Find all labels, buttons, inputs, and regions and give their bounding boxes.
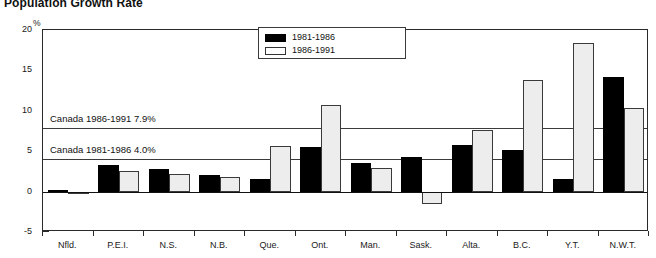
page-title: Population Growth Rate [4, 0, 143, 10]
x-tick-label: B.C. [513, 240, 531, 250]
bar [401, 157, 421, 192]
x-tick-label: Man. [360, 240, 380, 250]
y-tick-label: 10 [6, 105, 32, 115]
bar-group [43, 30, 94, 230]
reference-line-label: Canada 1981-1986 4.0% [50, 144, 156, 155]
y-tick-major [42, 231, 49, 232]
bar [300, 147, 320, 191]
bar-group [245, 30, 296, 230]
x-tick [598, 231, 599, 236]
bar-group [397, 30, 448, 230]
reference-line-label: Canada 1986-1991 7.9% [50, 113, 156, 124]
bar [149, 169, 169, 192]
y-tick-label: 20 [6, 24, 32, 34]
y-tick-label: 15 [6, 64, 32, 74]
bar-group [498, 30, 549, 230]
bar [321, 105, 341, 191]
bar [351, 163, 371, 192]
bar [573, 43, 593, 192]
bar-group [296, 30, 347, 230]
population-growth-rate-chart: Population Growth Rate % 20151050-5 Cana… [0, 0, 656, 258]
bar [270, 146, 290, 191]
bar [523, 80, 543, 192]
bar-group [195, 30, 246, 230]
bar [98, 165, 118, 192]
x-tick [345, 231, 346, 236]
legend-item: 1986-1991 [265, 44, 399, 57]
x-tick-label: Sask. [409, 240, 432, 250]
legend-swatch-icon [265, 34, 286, 42]
y-tick-label: 0 [6, 186, 32, 196]
x-tick [295, 231, 296, 236]
bar [169, 174, 189, 192]
x-tick-label: N.S. [159, 240, 177, 250]
bar-group [548, 30, 599, 230]
legend-swatch-icon [265, 47, 286, 55]
x-tick-label: Que. [259, 240, 279, 250]
x-tick-label: N.W.T. [610, 240, 637, 250]
bars-layer [43, 30, 647, 230]
plot-area [42, 29, 648, 231]
y-tick-label: -5 [6, 226, 32, 236]
bar [119, 171, 139, 192]
x-tick-label: Alta. [462, 240, 480, 250]
x-tick-label: Y.T. [565, 240, 579, 250]
x-tick [648, 231, 649, 236]
bar [624, 108, 644, 191]
x-tick [497, 231, 498, 236]
x-tick-label: Ont. [311, 240, 328, 250]
x-tick-label: Nfld. [58, 240, 77, 250]
y-tick-label: 5 [6, 145, 32, 155]
zero-baseline [43, 192, 647, 194]
x-tick [396, 231, 397, 236]
bar [422, 192, 442, 204]
bar-group [447, 30, 498, 230]
bar [472, 130, 492, 191]
x-tick [143, 231, 144, 236]
x-tick-label: N.B. [210, 240, 228, 250]
bar [553, 179, 573, 191]
bar [220, 177, 240, 192]
bar [250, 179, 270, 191]
bar-group [346, 30, 397, 230]
bar [199, 175, 219, 191]
x-tick [547, 231, 548, 236]
bar-group [144, 30, 195, 230]
bar-group [599, 30, 650, 230]
x-tick [194, 231, 195, 236]
bar-group [94, 30, 145, 230]
legend-label: 1981-1986 [292, 33, 335, 42]
x-tick [93, 231, 94, 236]
bar [603, 77, 623, 192]
bar [371, 168, 391, 191]
x-tick [42, 231, 43, 236]
x-tick [446, 231, 447, 236]
x-tick-label: P.E.I. [107, 240, 128, 250]
legend-item: 1981-1986 [265, 31, 399, 44]
legend: 1981-1986 1986-1991 [258, 27, 406, 59]
bar [502, 150, 522, 191]
bar [452, 145, 472, 192]
y-axis-unit-label: % [33, 18, 41, 28]
x-tick [244, 231, 245, 236]
legend-label: 1986-1991 [292, 46, 335, 55]
